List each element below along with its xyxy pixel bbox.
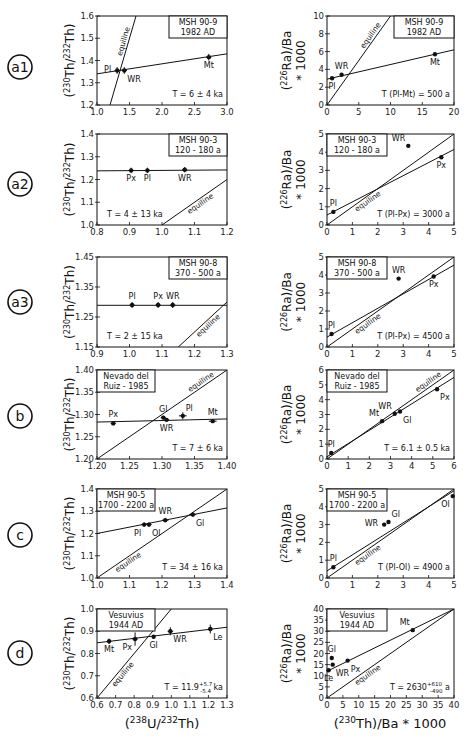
y-tick-label: 1.0	[80, 604, 94, 614]
point-label: Px	[123, 643, 133, 652]
sample-box-line: MSH 90-8	[338, 259, 377, 268]
equiline-label: equiline	[113, 550, 143, 574]
sample-box-line: 1982 AD	[407, 28, 442, 37]
y-tick-label: 1.3	[80, 506, 94, 516]
data-point: WR	[392, 134, 411, 148]
data-point: Gl	[149, 635, 157, 650]
x-tick-label: 0.9	[146, 700, 160, 710]
y-tick-label: 8	[319, 29, 324, 39]
y-tick-label: 1.2	[80, 175, 94, 185]
point-marker	[331, 662, 335, 666]
point-label: Gl	[149, 641, 157, 650]
point-label: WR	[378, 402, 392, 411]
x-tick-label: 1.4	[220, 580, 234, 590]
y-tick-label: 30	[313, 626, 324, 636]
sample-box-line: 1944 AD	[340, 621, 375, 630]
y-tick-label: 3	[319, 520, 324, 530]
y-tick-label: 4	[319, 64, 324, 74]
y-tick-label: 1.4	[80, 484, 94, 494]
y-axis-label-line1: (226Ra)/Ba	[280, 31, 294, 91]
x-tick-label: 0	[324, 349, 329, 359]
point-label: WR	[166, 292, 180, 301]
point-marker	[129, 168, 133, 172]
point-label: Pl	[328, 321, 335, 330]
data-point: Px	[126, 168, 136, 184]
y-axis-label-line2: * 1000	[294, 40, 308, 80]
sample-box: MSH 90-51700 - 2200 a	[327, 489, 387, 511]
x-tick-label: 0	[324, 700, 329, 710]
x-tick-label: 4	[426, 349, 431, 359]
y-tick-label: 1	[319, 324, 324, 334]
x-tick-label: 15	[417, 107, 428, 117]
figure: a1a2a3bcd1.01.52.02.53.01.21.31.41.51.6e…	[0, 0, 467, 738]
panel-c-right: 012345012345equilinePlWRGlOlMSH 90-51700…	[319, 484, 457, 590]
y-tick-label: 3	[319, 288, 324, 298]
x-tick-label: 1.0	[155, 227, 169, 237]
x-tick-label: 30	[417, 700, 428, 710]
point-label: Mt	[104, 645, 114, 654]
y-axis-label-line1: (226Ra)/Ba	[280, 385, 294, 445]
point-label: WR	[392, 134, 406, 143]
y-axis-label-right: (226Ra)/Ba* 1000	[280, 272, 308, 332]
x-tick-label: 3	[400, 580, 405, 590]
x-tick-label: 2	[367, 461, 372, 471]
point-label: Gl	[196, 519, 204, 528]
y-tick-label: 1	[319, 555, 324, 565]
y-tick-label: 1.2	[80, 529, 94, 539]
y-tick-label: 1.45	[75, 252, 94, 262]
data-point: WR	[122, 67, 142, 83]
x-tick-label: 1.25	[120, 461, 139, 471]
point-marker	[330, 656, 334, 660]
point-marker	[163, 518, 167, 522]
point-label: Ol	[152, 529, 161, 538]
x-tick-label: 1	[350, 227, 355, 237]
point-label: Px	[351, 665, 361, 674]
y-tick-label: 0	[319, 100, 324, 110]
x-tick-label: 1.3	[220, 349, 234, 359]
point-marker	[451, 494, 455, 498]
x-tick-label: 3	[388, 461, 393, 471]
point-marker	[211, 419, 215, 423]
y-tick-label: 5	[319, 129, 324, 139]
age-annotation: T = 2 ± 15 ka	[106, 332, 163, 341]
age-annotation: T = 6 ± 4 ka	[171, 90, 223, 99]
point-marker	[208, 627, 212, 631]
point-label: Px	[429, 280, 439, 289]
sample-box-line: MSH 90-3	[179, 136, 218, 145]
y-tick-label: 0	[319, 454, 324, 464]
y-tick-label: 0.8	[80, 649, 94, 659]
sample-box-line: Ruiz - 1985	[103, 382, 148, 391]
y-axis-label-right: (226Ra)/Ba* 1000	[280, 504, 308, 564]
data-point: WR	[378, 402, 397, 416]
x-tick-label: 0.9	[123, 227, 137, 237]
y-tick-label: 0	[319, 573, 324, 583]
sample-box-line: 370 - 500 a	[175, 269, 221, 278]
point-label: Le	[324, 674, 333, 683]
y-tick-label: 1.40	[75, 365, 94, 375]
x-tick-label: 4	[409, 461, 414, 471]
point-marker	[183, 168, 187, 172]
y-tick-label: 1.3	[80, 152, 94, 162]
row-label-text: a3	[11, 294, 29, 310]
point-marker	[156, 303, 160, 307]
x-tick-label: 1.30	[153, 461, 172, 471]
x-tick-label: 5	[430, 461, 435, 471]
data-point: Pl	[144, 168, 151, 184]
y-tick-label: 25	[313, 637, 324, 647]
data-point: Pl	[104, 65, 120, 74]
point-marker	[329, 332, 333, 336]
y-tick-label: 6	[319, 365, 324, 375]
row-label-text: a1	[11, 59, 29, 75]
x-tick-label: 2	[375, 580, 380, 590]
y-axis-label-line2: * 1000	[294, 633, 308, 673]
y-tick-label: 0.7	[80, 671, 94, 681]
sample-box: MSH 90-91982 AD	[169, 16, 227, 38]
data-point: WR	[159, 507, 173, 522]
x-tick-label: 2	[375, 227, 380, 237]
y-tick-label: 0.6	[80, 693, 94, 703]
row-label-b: b	[8, 404, 32, 428]
age-annotation: T (Pl-Mt) = 500 a	[381, 90, 450, 99]
y-tick-label: 1.4	[80, 129, 94, 139]
point-label: Le	[213, 633, 222, 642]
x-tick-label: 0	[324, 107, 329, 117]
